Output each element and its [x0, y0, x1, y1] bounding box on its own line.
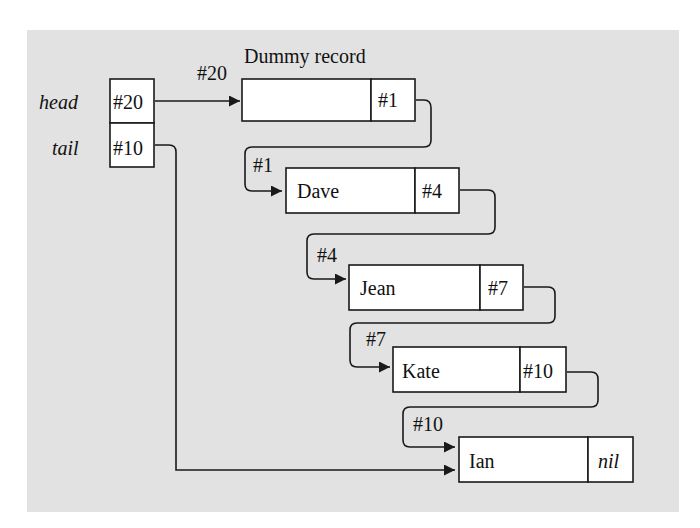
record-next: #4 [422, 180, 442, 202]
record-name-cell [242, 79, 371, 121]
head-value: #20 [113, 91, 143, 113]
link-label: #10 [413, 413, 443, 435]
record-next: #1 [378, 89, 398, 111]
record-next: #10 [523, 360, 553, 382]
record-dave: Dave #4 [286, 168, 459, 213]
link-label: #7 [366, 328, 386, 350]
dummy-record-title: Dummy record [244, 45, 366, 68]
record-next: #7 [488, 277, 508, 299]
link-label: #1 [253, 154, 273, 176]
linked-list-diagram: head tail #20 #10 Dummy record #20 #1 #1… [0, 0, 700, 528]
record-jean: Jean #7 [349, 265, 523, 310]
record-name: Kate [402, 360, 440, 382]
tail-value: #10 [113, 137, 143, 159]
record-ian: Ian nil [459, 437, 633, 482]
head-label: head [39, 91, 79, 113]
record-name: Ian [469, 450, 495, 472]
record-name: Jean [360, 277, 396, 299]
tail-label: tail [52, 137, 79, 159]
head-arrow-label: #20 [197, 62, 227, 84]
record-next-nil: nil [598, 450, 620, 472]
record-dummy: #1 [242, 79, 415, 121]
record-name: Dave [297, 180, 339, 202]
link-label: #4 [317, 244, 337, 266]
record-kate: Kate #10 [393, 347, 566, 392]
